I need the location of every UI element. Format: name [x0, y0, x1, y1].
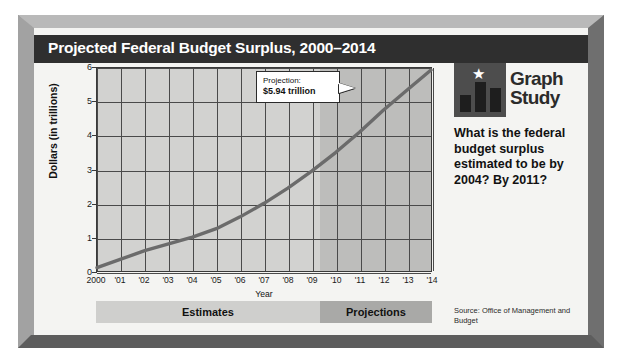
- y-axis-tick-label: 3: [76, 165, 92, 175]
- y-axis-tick-label: 6: [76, 62, 92, 72]
- frame-bevel-right: [588, 15, 604, 348]
- source-credit: Source: Office of Management and Budget: [454, 306, 578, 325]
- x-axis-tick-label: '09: [306, 275, 317, 285]
- x-axis-tick-label: '10: [330, 275, 341, 285]
- x-axis-tick-label: '14: [426, 275, 437, 285]
- x-axis-tick-label: '02: [138, 275, 149, 285]
- gridline-vertical: [433, 68, 434, 271]
- x-axis-tick-label: '06: [234, 275, 245, 285]
- x-axis-title: Year: [96, 289, 432, 299]
- logo-bar-1: [460, 95, 471, 112]
- y-axis-tick-label: 5: [76, 96, 92, 106]
- x-axis-tick-label: '11: [355, 275, 366, 285]
- callout-title: Projection:: [263, 76, 334, 86]
- frame-bevel-top: [18, 15, 604, 28]
- frame-bevel-bottom: [18, 335, 604, 348]
- logo-line-2: Study: [510, 88, 588, 107]
- y-axis-tick-labels: 0123456: [72, 67, 92, 272]
- y-axis-title: Dollars (in trillions): [47, 71, 59, 191]
- frame-bevel-left: [18, 15, 34, 348]
- x-axis-tick-label: 2000: [86, 275, 105, 285]
- y-axis-tick-label: 2: [76, 199, 92, 209]
- callout-pointer: [339, 83, 355, 93]
- graph-study-wordmark: Graph Study: [510, 69, 588, 107]
- x-axis-tick-label: '13: [402, 275, 413, 285]
- gridline-horizontal: [97, 273, 431, 274]
- x-axis-tick-label: '03: [162, 275, 173, 285]
- x-axis-tick-labels: 2000'01'02'03'04'05'06'07'08'09'10'11'12…: [96, 275, 432, 289]
- callout-value: $5.94 trillion: [263, 86, 334, 97]
- y-axis-tick-label: 4: [76, 130, 92, 140]
- bar-chart-icon: ★: [454, 63, 506, 117]
- chart-card: Projected Federal Budget Surplus, 2000–2…: [34, 28, 588, 335]
- graph-study-panel: ★ Graph Study What is the federal budget…: [438, 63, 588, 335]
- projection-callout: Projection: $5.94 trillion: [256, 71, 340, 103]
- period-bands: Estimates Projections: [96, 301, 432, 323]
- y-axis-tick-label: 1: [76, 233, 92, 243]
- study-question: What is the federal budget surplus estim…: [454, 126, 580, 188]
- band-projections: Projections: [320, 301, 432, 323]
- screenshot-root: Projected Federal Budget Surplus, 2000–2…: [0, 0, 622, 362]
- x-axis-tick-label: '01: [114, 275, 125, 285]
- star-icon: ★: [472, 66, 485, 81]
- graph-study-logo: ★ Graph Study: [454, 63, 588, 121]
- x-axis-tick-label: '12: [378, 275, 389, 285]
- x-axis-tick-label: '07: [258, 275, 269, 285]
- x-axis-tick-label: '08: [282, 275, 293, 285]
- band-estimates: Estimates: [96, 301, 320, 323]
- page-title: Projected Federal Budget Surplus, 2000–2…: [48, 39, 375, 57]
- x-axis-tick-label: '05: [210, 275, 221, 285]
- x-axis-tick-label: '04: [186, 275, 197, 285]
- chart-figure: Dollars (in trillions) 0123456 Projectio…: [34, 63, 434, 335]
- logo-bar-3: [490, 88, 501, 112]
- logo-line-1: Graph: [510, 69, 588, 88]
- logo-bar-2: [475, 82, 486, 112]
